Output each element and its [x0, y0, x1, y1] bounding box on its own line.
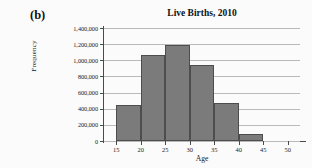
histogram-bar — [190, 65, 215, 141]
plot-area — [104, 28, 300, 141]
histogram-bar — [116, 105, 141, 141]
histogram-bar — [141, 55, 166, 141]
x-tick-mark — [239, 141, 240, 145]
histogram-bar — [214, 103, 239, 141]
figure-panel: (b) Live Births, 2010 Frequency Age 0200… — [0, 0, 312, 168]
y-tick-label: 800,000 — [0, 73, 98, 80]
gridline — [104, 141, 300, 142]
x-tick-mark — [190, 141, 191, 145]
x-tick-label: 35 — [204, 146, 224, 153]
x-tick-label: 50 — [278, 146, 298, 153]
x-tick-mark — [263, 141, 264, 145]
y-tick-label: 1,400,000 — [0, 25, 98, 32]
histogram-bar — [165, 45, 190, 141]
x-tick-label: 45 — [253, 146, 273, 153]
y-tick-label: 1,000,000 — [0, 57, 98, 64]
y-tick-label: 600,000 — [0, 89, 98, 96]
x-tick-mark — [214, 141, 215, 145]
x-tick-label: 15 — [106, 146, 126, 153]
x-tick-mark — [116, 141, 117, 145]
x-axis-title: Age — [104, 154, 300, 163]
x-tick-mark — [165, 141, 166, 145]
chart-title: Live Births, 2010 — [104, 8, 300, 18]
y-tick-label: 400,000 — [0, 105, 98, 112]
histogram-bar — [239, 134, 264, 141]
y-tick-label: 1,200,000 — [0, 41, 98, 48]
x-tick-label: 30 — [180, 146, 200, 153]
y-tick-mark — [100, 141, 104, 142]
x-tick-mark — [288, 141, 289, 145]
x-tick-label: 20 — [131, 146, 151, 153]
x-tick-label: 25 — [155, 146, 175, 153]
x-tick-label: 40 — [229, 146, 249, 153]
y-tick-label: 200,000 — [0, 121, 98, 128]
y-tick-label: 0 — [0, 138, 98, 145]
x-tick-mark — [141, 141, 142, 145]
